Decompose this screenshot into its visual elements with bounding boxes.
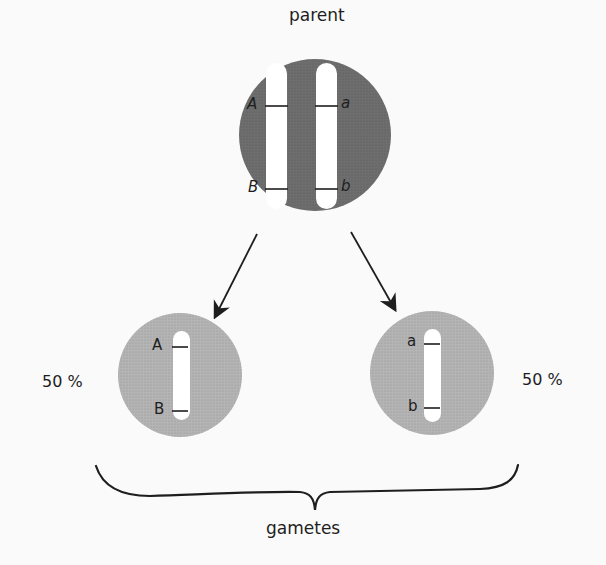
allele-label: A bbox=[247, 95, 257, 113]
allele-label: B bbox=[154, 400, 164, 418]
allele-label: B bbox=[248, 178, 258, 196]
parent-label: parent bbox=[289, 5, 345, 25]
parent-chromosome-2 bbox=[316, 63, 337, 209]
percent-right: 50 % bbox=[522, 370, 563, 389]
allele-label: b bbox=[408, 397, 418, 415]
gamete-right bbox=[370, 311, 494, 435]
allele-label: b bbox=[341, 177, 351, 195]
percent-left: 50 % bbox=[42, 372, 83, 391]
diagram-canvas bbox=[0, 0, 606, 565]
gamete-left-chromosome bbox=[173, 331, 190, 420]
gametes-brace bbox=[96, 465, 518, 510]
parent-cell bbox=[239, 59, 391, 211]
allele-label: a bbox=[341, 94, 350, 112]
gametes-label: gametes bbox=[266, 518, 340, 538]
gamete-left bbox=[118, 313, 242, 437]
arrow-left bbox=[217, 234, 257, 313]
parent-chromosome-1 bbox=[266, 63, 287, 209]
allele-label: A bbox=[152, 336, 162, 354]
arrow-right bbox=[351, 232, 393, 306]
allele-label: a bbox=[407, 332, 416, 350]
